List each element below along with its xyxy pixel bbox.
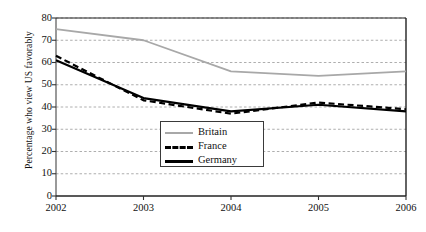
legend-swatch-france — [165, 141, 193, 151]
axis-ticks — [52, 18, 406, 200]
chart-figure: Percentage who view US favorably 8070605… — [0, 0, 426, 232]
legend-label-britain: Britain — [198, 127, 227, 138]
legend-swatch-britain — [165, 127, 193, 137]
legend-label-germany: Germany — [198, 155, 237, 166]
plot-area — [0, 0, 426, 232]
legend-item-britain: Britain — [165, 125, 259, 139]
data-series-group — [56, 29, 406, 114]
legend-label-france: France — [198, 141, 227, 152]
series-line-germany — [56, 60, 406, 111]
legend-item-france: France — [165, 139, 259, 153]
legend-item-germany: Germany — [165, 153, 259, 167]
series-line-britain — [56, 29, 406, 76]
legend: Britain France Germany — [160, 121, 264, 167]
legend-swatch-germany — [165, 155, 193, 165]
